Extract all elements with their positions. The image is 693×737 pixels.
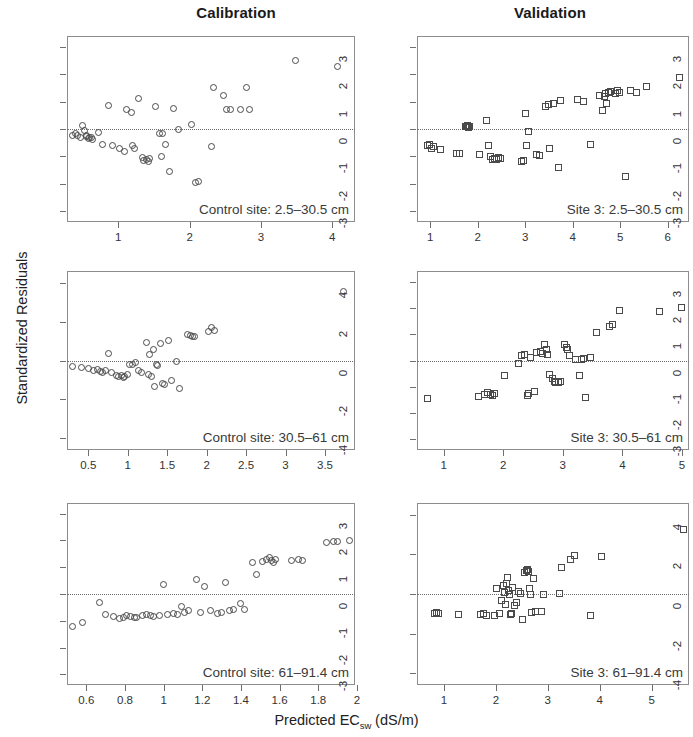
data-point <box>544 351 551 358</box>
x-axis-tick-label: 1 <box>413 231 447 243</box>
x-axis-tick <box>286 450 287 456</box>
data-point <box>525 568 532 575</box>
y-axis-tick <box>60 648 66 649</box>
data-point <box>522 110 529 117</box>
x-axis-tick-label: 2 <box>173 231 207 243</box>
data-point <box>230 606 237 613</box>
y-axis-tick <box>60 540 66 541</box>
data-point <box>197 609 204 616</box>
x-axis-tick <box>246 450 247 456</box>
x-axis-label-main: Predicted EC <box>274 712 359 728</box>
x-axis-tick <box>622 450 623 456</box>
residual-plot-figure: Calibration Validation Standardized Resi… <box>0 0 693 737</box>
y-axis-tick <box>410 211 416 212</box>
x-axis-tick-label: 0.8 <box>108 694 142 706</box>
panel-annotation: Control site: 30.5–61 cm <box>203 430 349 445</box>
y-axis-tick <box>410 634 416 635</box>
y-axis-tick <box>410 361 416 362</box>
data-point <box>587 141 594 148</box>
x-axis-tick-label: 4 <box>315 231 349 243</box>
data-point <box>485 142 492 149</box>
data-point <box>89 136 96 143</box>
x-axis-tick <box>548 685 549 691</box>
x-axis-tick-label: 3 <box>244 231 278 243</box>
data-point <box>515 360 522 367</box>
data-point <box>109 142 116 149</box>
y-axis-tick-label: 1 <box>671 101 683 127</box>
data-point <box>536 152 543 159</box>
data-point <box>609 321 616 328</box>
data-point <box>207 607 214 614</box>
y-axis-tick <box>60 674 66 675</box>
data-point <box>530 575 537 582</box>
data-point <box>272 556 279 563</box>
panel-bottom-right: 420-2-412345Site 3: 61–91.4 cm <box>417 503 689 685</box>
x-axis-tick-label: 2 <box>190 459 224 471</box>
y-axis-tick <box>60 156 66 157</box>
data-point <box>323 539 330 546</box>
data-point <box>491 390 498 397</box>
y-axis-tick-label: 0 <box>337 360 349 386</box>
x-axis-tick <box>444 685 445 691</box>
data-point <box>593 329 600 336</box>
data-point <box>69 363 76 370</box>
x-axis-tick <box>652 685 653 691</box>
x-axis-tick-label: 1 <box>147 694 181 706</box>
x-axis-tick-label: 1 <box>427 694 461 706</box>
x-axis-tick-label: 1.2 <box>185 694 219 706</box>
data-point <box>506 591 513 598</box>
x-axis-tick-label: 2 <box>479 694 513 706</box>
zero-reference-line <box>417 129 689 130</box>
y-axis-tick <box>410 554 416 555</box>
x-axis-tick <box>325 450 326 456</box>
data-point <box>538 608 545 615</box>
panel-top-left: 3210-1-2-31234Control site: 2.5–30.5 cm <box>67 36 355 222</box>
zero-reference-line <box>417 594 689 595</box>
data-point <box>504 574 511 581</box>
data-point <box>599 107 606 114</box>
data-point <box>99 141 106 148</box>
x-axis-tick <box>128 450 129 456</box>
data-point <box>288 557 295 564</box>
y-axis-tick-label: 0 <box>337 128 349 154</box>
x-axis-tick-label: 1.8 <box>301 694 335 706</box>
data-point <box>527 591 534 598</box>
data-point <box>292 57 299 64</box>
y-axis-tick <box>410 387 416 388</box>
panel-annotation: Control site: 2.5–30.5 cm <box>199 202 349 217</box>
y-axis-tick <box>60 283 66 284</box>
data-point <box>622 173 629 180</box>
data-point <box>616 307 623 314</box>
y-axis-tick <box>410 673 416 674</box>
data-point <box>523 142 530 149</box>
data-point <box>195 178 202 185</box>
y-axis-tick <box>410 74 416 75</box>
data-point <box>603 100 610 107</box>
y-axis-tick <box>410 102 416 103</box>
data-point <box>193 576 200 583</box>
y-axis-tick <box>410 184 416 185</box>
x-axis-tick-label: 0.5 <box>71 459 105 471</box>
x-axis-tick-label: 1.5 <box>150 459 184 471</box>
x-axis-tick-label: 0.6 <box>69 694 103 706</box>
x-axis-tick <box>600 685 601 691</box>
y-axis-tick-label: -1 <box>671 155 683 181</box>
data-point <box>128 109 135 116</box>
data-point <box>576 372 583 379</box>
y-axis-tick <box>410 439 416 440</box>
data-point <box>456 150 463 157</box>
zero-reference-line <box>67 594 355 595</box>
data-point <box>571 552 578 559</box>
data-point <box>476 151 483 158</box>
data-point <box>580 98 587 105</box>
x-axis-tick <box>261 222 262 228</box>
data-point <box>678 304 685 311</box>
panel-annotation: Site 3: 61–91.4 cm <box>570 665 683 680</box>
data-point <box>430 143 437 150</box>
x-axis-tick <box>280 685 281 691</box>
x-axis-tick-label: 3 <box>269 459 303 471</box>
data-point <box>598 553 605 560</box>
data-point <box>249 559 256 566</box>
y-axis-tick <box>60 184 66 185</box>
data-point <box>557 97 564 104</box>
